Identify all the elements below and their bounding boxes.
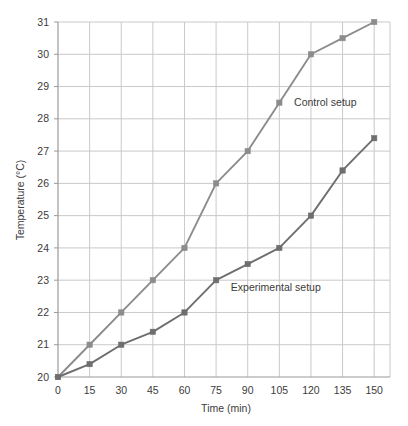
x-tick-label: 120 (302, 384, 320, 396)
data-point-marker (245, 148, 250, 153)
data-point-marker (182, 310, 187, 315)
y-tick-label: 27 (37, 145, 49, 157)
data-point-marker (371, 135, 376, 140)
y-tick-label: 21 (37, 338, 49, 350)
chart-container: 202122232425262728293031 015304560759010… (0, 0, 408, 426)
x-tick-label: 15 (84, 384, 96, 396)
data-point-marker (55, 374, 60, 379)
x-tick-label: 30 (115, 384, 127, 396)
data-point-marker (308, 52, 313, 57)
data-point-marker (213, 181, 218, 186)
x-tick-label: 75 (210, 384, 222, 396)
data-point-marker (87, 342, 92, 347)
x-tick-label: 135 (334, 384, 352, 396)
series-label-2: Experimental setup (231, 281, 321, 293)
x-tick-label: 90 (242, 384, 254, 396)
data-point-marker (245, 261, 250, 266)
y-tick-label: 20 (37, 371, 49, 383)
data-point-marker (371, 19, 376, 24)
data-point-marker (277, 245, 282, 250)
y-tick-label: 29 (37, 80, 49, 92)
data-point-marker (150, 329, 155, 334)
chart-background (0, 0, 408, 426)
x-tick-label: 150 (365, 384, 383, 396)
x-tick-label: 0 (55, 384, 61, 396)
data-point-marker (182, 245, 187, 250)
x-tick-label: 45 (147, 384, 159, 396)
data-point-marker (213, 277, 218, 282)
series-label-1: Control setup (294, 96, 357, 108)
line-chart: 202122232425262728293031 015304560759010… (0, 0, 408, 426)
data-point-marker (308, 213, 313, 218)
data-point-marker (119, 342, 124, 347)
y-tick-label: 25 (37, 209, 49, 221)
y-tick-label: 22 (37, 306, 49, 318)
data-point-marker (340, 35, 345, 40)
data-point-marker (277, 100, 282, 105)
y-tick-label: 26 (37, 177, 49, 189)
y-tick-label: 30 (37, 48, 49, 60)
x-tick-label: 60 (179, 384, 191, 396)
x-tick-label: 105 (271, 384, 289, 396)
y-tick-label: 28 (37, 112, 49, 124)
y-tick-label: 24 (37, 242, 49, 254)
x-axis-title: Time (min) (201, 402, 251, 414)
y-axis-title: Temperature (°C) (14, 160, 26, 241)
data-point-marker (150, 277, 155, 282)
y-tick-label: 31 (37, 16, 49, 28)
data-point-marker (87, 361, 92, 366)
y-tick-label: 23 (37, 274, 49, 286)
data-point-marker (340, 168, 345, 173)
data-point-marker (119, 310, 124, 315)
